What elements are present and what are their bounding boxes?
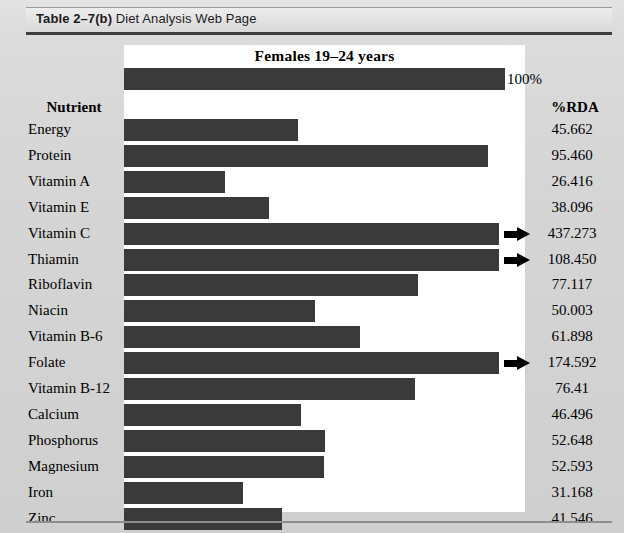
rda-value: 52.648 xyxy=(527,432,617,449)
nutrient-bar xyxy=(124,197,269,219)
nutrient-label: Protein xyxy=(28,147,120,164)
chart-row: Phosphorus52.648 xyxy=(0,429,624,455)
nutrient-label: Riboflavin xyxy=(28,276,120,293)
chart-row: Calcium46.496 xyxy=(0,403,624,429)
nutrient-bar xyxy=(124,223,499,245)
column-header-rda: %RDA xyxy=(533,99,617,116)
chart-row: Magnesium52.593 xyxy=(0,455,624,481)
rda-value: 31.168 xyxy=(527,484,617,501)
rda-value: 437.273 xyxy=(527,225,617,242)
nutrient-bar xyxy=(124,352,499,374)
nutrient-label: Vitamin A xyxy=(28,173,120,190)
chart-row: Vitamin B-661.898 xyxy=(0,325,624,351)
nutrient-bar xyxy=(124,456,324,478)
rda-value: 46.496 xyxy=(527,406,617,423)
nutrient-bar xyxy=(124,249,499,271)
caption-rule-bottom xyxy=(26,32,612,35)
chart-row: Vitamin E38.096 xyxy=(0,196,624,222)
figure-caption: Table 2–7(b) Diet Analysis Web Page xyxy=(36,11,257,26)
reference-bar-label: 100% xyxy=(507,71,542,88)
chart-row: Protein95.460 xyxy=(0,144,624,170)
chart-row: Thiamin108.450 xyxy=(0,248,624,274)
chart-row: Niacin50.003 xyxy=(0,299,624,325)
nutrient-bar xyxy=(124,119,298,141)
nutrient-label: Folate xyxy=(28,354,120,371)
nutrient-bar xyxy=(124,326,360,348)
nutrient-label: Zinc xyxy=(28,510,120,527)
nutrient-bar xyxy=(124,404,301,426)
page-background: Table 2–7(b) Diet Analysis Web Page Fema… xyxy=(0,0,624,533)
nutrient-bar xyxy=(124,171,225,193)
chart-row: Vitamin B-1276.41 xyxy=(0,377,624,403)
nutrient-label: Phosphorus xyxy=(28,432,120,449)
chart-row: Vitamin C437.273 xyxy=(0,222,624,248)
chart-row: Folate174.592 xyxy=(0,351,624,377)
rda-value: 50.003 xyxy=(527,302,617,319)
chart-row: Zinc41.546 xyxy=(0,507,624,533)
nutrient-bar xyxy=(124,430,325,452)
page-bottom-rule xyxy=(26,521,612,523)
rda-value: 95.460 xyxy=(527,147,617,164)
nutrient-label: Vitamin E xyxy=(28,199,120,216)
nutrient-label: Vitamin B-12 xyxy=(28,380,120,397)
reference-bar-row: 100% xyxy=(124,68,624,90)
nutrient-bar xyxy=(124,482,243,504)
rda-value: 52.593 xyxy=(527,458,617,475)
nutrient-label: Thiamin xyxy=(28,251,120,268)
nutrient-label: Energy xyxy=(28,121,120,138)
nutrient-label: Calcium xyxy=(28,406,120,423)
nutrient-label: Magnesium xyxy=(28,458,120,475)
column-header-nutrient: Nutrient xyxy=(28,99,120,116)
nutrient-bar xyxy=(124,145,488,167)
nutrient-bar xyxy=(124,508,282,530)
rda-value: 76.41 xyxy=(527,380,617,397)
nutrient-label: Vitamin C xyxy=(28,225,120,242)
rda-value: 38.096 xyxy=(527,199,617,216)
rda-value: 26.416 xyxy=(527,173,617,190)
chart-row: Energy45.662 xyxy=(0,118,624,144)
chart-row: Iron31.168 xyxy=(0,481,624,507)
chart-row: Riboflavin77.117 xyxy=(0,273,624,299)
figure-number: Table 2–7(b) xyxy=(36,11,112,26)
figure-title: Diet Analysis Web Page xyxy=(116,11,257,26)
nutrient-label: Niacin xyxy=(28,302,120,319)
nutrient-bar xyxy=(124,378,415,400)
rda-value: 174.592 xyxy=(527,354,617,371)
reference-bar xyxy=(124,68,505,90)
nutrient-bar xyxy=(124,274,418,296)
chart-row: Vitamin A26.416 xyxy=(0,170,624,196)
nutrient-label: Iron xyxy=(28,484,120,501)
rda-value: 61.898 xyxy=(527,328,617,345)
nutrient-bar xyxy=(124,300,315,322)
rda-value: 41.546 xyxy=(527,510,617,527)
nutrient-label: Vitamin B-6 xyxy=(28,328,120,345)
rda-value: 45.662 xyxy=(527,121,617,138)
chart-title: Females 19–24 years xyxy=(124,47,525,65)
rda-value: 77.117 xyxy=(527,276,617,293)
rda-value: 108.450 xyxy=(527,251,617,268)
